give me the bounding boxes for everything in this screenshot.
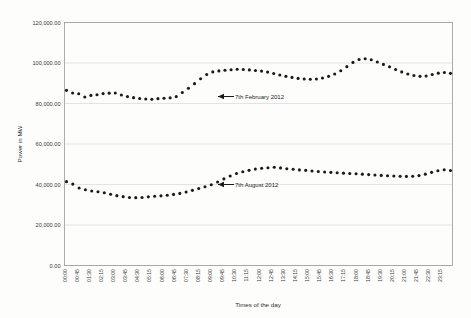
x-axis-tick-label: 15:45 — [316, 269, 322, 282]
annotation-august: 7th August 2012 — [218, 182, 279, 188]
data-point — [114, 91, 117, 94]
data-point — [128, 196, 131, 199]
data-point — [323, 170, 326, 173]
data-point — [278, 73, 281, 76]
data-point — [138, 97, 141, 100]
data-point — [342, 172, 345, 175]
data-point — [266, 71, 269, 74]
data-point — [292, 168, 295, 171]
data-point — [298, 168, 301, 171]
data-point — [358, 58, 361, 61]
data-point — [71, 91, 74, 94]
data-point — [386, 174, 389, 177]
data-point — [285, 167, 288, 170]
x-axis-tick-label: 21:45 — [413, 269, 419, 282]
data-point — [373, 173, 376, 176]
data-point — [150, 98, 153, 101]
data-point — [364, 57, 367, 60]
data-point — [443, 71, 446, 74]
data-point — [205, 73, 208, 76]
x-axis-tick-label: 03:00 — [110, 269, 116, 282]
y-axis-tick-label: 20,000.00 — [36, 222, 61, 228]
data-point — [248, 68, 251, 71]
data-point — [126, 95, 129, 98]
x-axis-tick-label: 19:30 — [377, 269, 383, 282]
x-axis-tick-label: 07:30 — [183, 269, 189, 282]
data-point — [162, 97, 165, 100]
data-point — [254, 168, 257, 171]
data-point — [297, 77, 300, 80]
data-point — [223, 69, 226, 72]
x-axis-tick-label: 16:30 — [328, 269, 334, 282]
data-point — [120, 93, 123, 96]
data-point — [229, 174, 232, 177]
data-point — [185, 190, 188, 193]
x-axis-tick-labels: 00:0000:4501:3002:1503:0003:4504:3005:15… — [62, 269, 444, 282]
x-axis-tick-label: 17:15 — [340, 269, 346, 282]
data-point — [321, 76, 324, 79]
data-point — [424, 173, 427, 176]
data-point — [351, 61, 354, 64]
y-axis-tick-label: 40,000.00 — [36, 182, 61, 188]
y-axis-tick-label: 100,000.00 — [33, 60, 61, 66]
data-point — [417, 174, 420, 177]
data-point — [431, 73, 434, 76]
data-point — [376, 60, 379, 63]
data-point — [443, 168, 446, 171]
x-axis-tick-label: 06:00 — [159, 269, 165, 282]
chart-canvas: 0.0020,000.0040,000.0060,000.0080,000.00… — [0, 0, 471, 318]
data-point — [181, 91, 184, 94]
data-point — [310, 169, 313, 172]
data-point — [449, 169, 452, 172]
y-axis-tick-labels: 0.0020,000.0040,000.0060,000.0080,000.00… — [33, 20, 61, 269]
data-point — [260, 70, 263, 73]
x-axis-tick-label: 08:15 — [195, 269, 201, 282]
data-point — [382, 63, 385, 66]
data-point — [272, 72, 275, 75]
x-axis-tick-label: 12:00 — [256, 269, 262, 282]
data-point — [166, 194, 169, 197]
data-point — [348, 172, 351, 175]
x-axis-tick-label: 00:45 — [74, 269, 80, 282]
data-point — [290, 76, 293, 79]
x-axis-tick-label: 14:15 — [292, 269, 298, 282]
data-point — [304, 169, 307, 172]
data-point — [191, 189, 194, 192]
data-point — [193, 82, 196, 85]
data-point — [141, 196, 144, 199]
x-axis-tick-label: 01:30 — [86, 269, 92, 282]
x-axis-tick-label: 02:15 — [98, 269, 104, 282]
data-point — [242, 68, 245, 71]
y-axis-tick-label: 0.00 — [50, 263, 61, 269]
data-point — [329, 171, 332, 174]
x-axis-tick-label: 00:00 — [62, 269, 68, 282]
data-point — [71, 183, 74, 186]
data-point — [418, 75, 421, 78]
data-point — [211, 70, 214, 73]
x-axis-tick-label: 23:15 — [437, 269, 443, 282]
data-point — [115, 194, 118, 197]
gridlines-group — [65, 23, 453, 266]
data-point — [309, 78, 312, 81]
x-axis-tick-label: 06:45 — [171, 269, 177, 282]
data-point — [89, 94, 92, 97]
data-point — [284, 75, 287, 78]
data-point — [380, 174, 383, 177]
x-axis-tick-label: 21:00 — [401, 269, 407, 282]
x-axis-tick-label: 18:45 — [365, 269, 371, 282]
data-point — [78, 186, 81, 189]
data-point — [175, 95, 178, 98]
x-axis-tick-label: 18:00 — [353, 269, 359, 282]
data-point — [95, 93, 98, 96]
x-axis-tick-label: 22:30 — [425, 269, 431, 282]
data-point — [65, 89, 68, 92]
x-axis-tick-label: 10:30 — [231, 269, 237, 282]
series-label-august: 7th August 2012 — [235, 182, 279, 188]
data-point — [437, 72, 440, 75]
data-point — [361, 173, 364, 176]
data-point — [430, 171, 433, 174]
data-point — [96, 190, 99, 193]
data-point — [266, 166, 269, 169]
data-point — [134, 196, 137, 199]
data-point — [217, 69, 220, 72]
